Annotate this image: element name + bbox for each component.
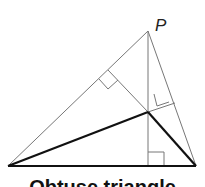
point-label-p: P <box>155 16 166 36</box>
outer-triangle <box>8 31 196 166</box>
diagram-caption: Obtuse triangle <box>0 176 205 187</box>
orthocenter-diagram <box>0 0 205 187</box>
